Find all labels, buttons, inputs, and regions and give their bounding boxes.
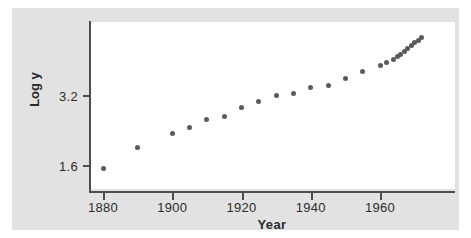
y-axis-tick-label: 1.6 [59,159,78,174]
x-axis-tick-label: 1900 [142,200,202,215]
x-axis-tick [242,193,244,200]
x-axis-tick [103,193,105,200]
x-axis-title: Year [89,217,455,232]
x-axis-tick-label: 1940 [281,200,341,215]
x-axis-tick-label: 1960 [350,200,410,215]
x-axis-tick [380,193,382,200]
y-axis-line [89,21,91,193]
y-axis-tick [83,95,91,97]
y-axis-tick [83,165,91,167]
y-axis-tick-label-wrap: 3.2 [16,87,78,105]
x-axis-tick-label: 1920 [212,200,272,215]
x-axis-tick [311,193,313,200]
chart-screenshot: 188019001920194019601.63.2 Log y Year [0,0,471,238]
x-axis-tick-label: 1880 [73,200,133,215]
x-axis-line [89,191,455,193]
y-axis-title: Log y [27,60,42,120]
x-axis-tick [172,193,174,200]
y-axis-tick-label-wrap: 1.6 [16,157,78,175]
y-axis-tick-label: 3.2 [59,89,78,104]
plot-area [91,22,455,189]
figure-panel: 188019001920194019601.63.2 Log y Year [12,8,459,230]
